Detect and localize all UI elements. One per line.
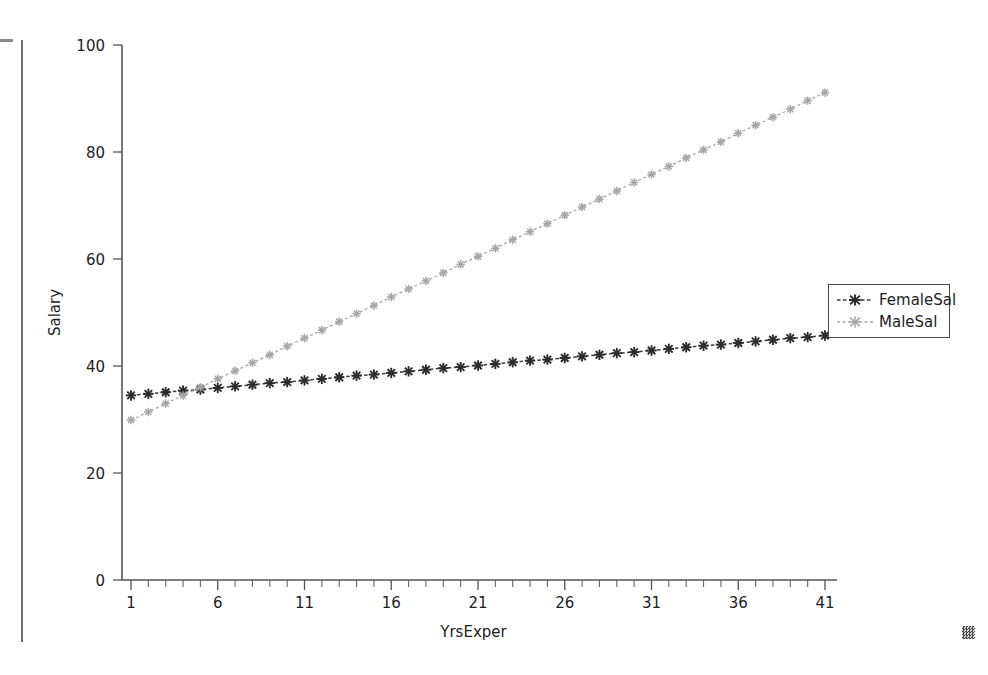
data-point-marker <box>647 170 655 178</box>
data-point-marker <box>577 351 587 361</box>
data-point-marker <box>578 203 586 211</box>
data-point-marker <box>664 344 674 354</box>
legend-item-malesal[interactable]: MaleSal <box>835 311 944 333</box>
data-point-marker <box>682 154 690 162</box>
legend-label-malesal: MaleSal <box>875 313 937 331</box>
data-series-layer <box>126 88 830 424</box>
data-point-marker <box>509 236 517 244</box>
data-point-marker <box>299 375 309 385</box>
data-point-marker <box>162 399 170 407</box>
legend-item-femalesal[interactable]: FemaleSal <box>835 289 944 311</box>
data-point-marker <box>594 350 604 360</box>
data-point-marker <box>335 317 343 325</box>
data-point-marker <box>561 211 569 219</box>
data-point-marker <box>526 228 534 236</box>
data-point-marker <box>560 353 570 363</box>
data-point-marker <box>630 178 638 186</box>
data-point-marker <box>439 269 447 277</box>
data-point-marker <box>230 381 240 391</box>
data-point-marker <box>351 370 361 380</box>
data-point-marker <box>317 374 327 384</box>
y-tick-label: 0 <box>95 572 105 590</box>
data-point-marker <box>370 301 378 309</box>
data-point-marker <box>490 359 500 369</box>
data-point-marker <box>300 334 308 342</box>
data-point-marker <box>646 345 656 355</box>
x-tick-label: 31 <box>642 594 661 612</box>
y-tick-label: 40 <box>86 358 105 376</box>
data-point-marker <box>179 391 187 399</box>
data-point-marker <box>734 129 742 137</box>
x-tick-label: 11 <box>295 594 314 612</box>
x-tick-label: 36 <box>729 594 748 612</box>
data-point-marker <box>283 342 291 350</box>
data-point-marker <box>733 338 743 348</box>
x-tick-label: 16 <box>382 594 401 612</box>
y-tick-label: 100 <box>76 37 105 55</box>
data-point-marker <box>456 260 464 268</box>
y-tick-label: 20 <box>86 465 105 483</box>
data-point-marker <box>716 339 726 349</box>
data-point-marker <box>821 88 829 96</box>
data-point-marker <box>629 347 639 357</box>
data-point-marker <box>595 195 603 203</box>
data-point-marker <box>266 351 274 359</box>
y-tick-label: 60 <box>86 251 105 269</box>
data-point-marker <box>612 348 622 358</box>
data-point-marker <box>786 105 794 113</box>
data-point-marker <box>144 408 152 416</box>
data-point-marker <box>698 340 708 350</box>
data-point-marker <box>751 121 759 129</box>
data-point-marker <box>769 113 777 121</box>
data-point-marker <box>247 380 257 390</box>
data-point-marker <box>143 389 153 399</box>
data-point-marker <box>334 372 344 382</box>
data-point-marker <box>404 285 412 293</box>
x-axis-title: YrsExper <box>439 623 507 641</box>
data-point-marker <box>455 362 465 372</box>
data-point-marker <box>161 387 171 397</box>
x-tick-label: 26 <box>555 594 574 612</box>
data-point-marker <box>421 365 431 375</box>
legend-label-femalesal: FemaleSal <box>875 291 956 309</box>
y-axis-title: Salary <box>46 289 64 336</box>
data-point-marker <box>802 332 812 342</box>
data-point-marker <box>681 342 691 352</box>
data-point-marker <box>369 369 379 379</box>
data-point-marker <box>318 326 326 334</box>
data-point-marker <box>665 162 673 170</box>
data-point-marker <box>438 363 448 373</box>
data-point-marker <box>750 336 760 346</box>
data-point-marker <box>282 377 292 387</box>
data-point-marker <box>803 96 811 104</box>
data-point-marker <box>352 309 360 317</box>
data-point-marker <box>491 244 499 252</box>
legend-key-malesal-icon <box>835 314 875 330</box>
data-point-marker <box>387 293 395 301</box>
data-point-marker <box>422 277 430 285</box>
data-point-marker <box>542 354 552 364</box>
x-tick-label: 6 <box>213 594 223 612</box>
data-point-marker <box>213 383 223 393</box>
data-point-marker <box>196 383 204 391</box>
data-point-marker <box>717 138 725 146</box>
data-point-marker <box>543 219 551 227</box>
data-point-marker <box>508 357 518 367</box>
chart-legend[interactable]: FemaleSal MaleSal <box>828 284 950 338</box>
data-point-marker <box>403 366 413 376</box>
data-point-marker <box>265 378 275 388</box>
data-point-marker <box>613 187 621 195</box>
x-tick-label: 41 <box>815 594 834 612</box>
data-point-marker <box>248 359 256 367</box>
chart-page: 020406080100 1611162126313641 Salary Yrs… <box>0 0 988 675</box>
series-femalesal <box>126 330 830 400</box>
x-tick-label: 1 <box>126 594 136 612</box>
y-axis-ticks: 020406080100 <box>76 37 122 590</box>
data-point-marker <box>127 416 135 424</box>
x-tick-label: 21 <box>468 594 487 612</box>
data-point-marker <box>699 146 707 154</box>
data-point-marker <box>386 368 396 378</box>
data-point-marker <box>474 252 482 260</box>
data-point-marker <box>214 375 222 383</box>
data-point-marker <box>231 367 239 375</box>
